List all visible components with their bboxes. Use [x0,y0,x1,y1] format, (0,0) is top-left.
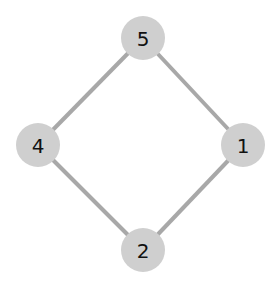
edge-5-4 [38,38,143,145]
edges [38,38,243,250]
node-4: 4 [16,123,60,167]
node-label: 2 [137,239,150,263]
node-5: 5 [121,16,165,60]
node-1: 1 [221,123,265,167]
edge-4-2 [38,145,143,250]
graph-canvas: 5 4 1 2 [0,0,270,287]
node-label: 4 [32,134,45,158]
node-label: 5 [137,27,150,51]
node-2: 2 [121,228,165,272]
node-label: 1 [237,134,250,158]
